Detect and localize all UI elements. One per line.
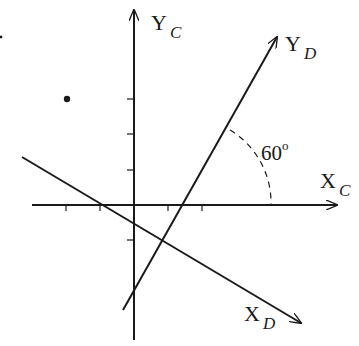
yc-label-sub: C — [170, 23, 181, 42]
xd-label-main: X — [244, 301, 260, 326]
degree-symbol: o — [282, 138, 289, 153]
xc-label-sub: C — [339, 181, 350, 200]
angle-label: 60o — [261, 141, 289, 164]
edge-mark — [0, 36, 2, 39]
yd-label-main: Y — [285, 31, 301, 56]
point-marker — [64, 96, 70, 102]
angle-value: 60 — [261, 141, 282, 165]
yc-label-main: Y — [151, 10, 167, 35]
xd-label-sub: D — [263, 314, 275, 333]
yc-label: YC — [151, 12, 181, 34]
xd-label: XD — [244, 303, 275, 325]
yd-label-sub: D — [304, 44, 316, 63]
xc-label: XC — [320, 170, 350, 192]
xd-axis — [22, 157, 301, 323]
coordinate-diagram: YC YD 60o XC XD — [0, 0, 359, 346]
yc-ticks — [127, 99, 134, 240]
xc-label-main: X — [320, 168, 336, 193]
yd-axis — [123, 37, 277, 310]
yd-label: YD — [285, 33, 316, 55]
